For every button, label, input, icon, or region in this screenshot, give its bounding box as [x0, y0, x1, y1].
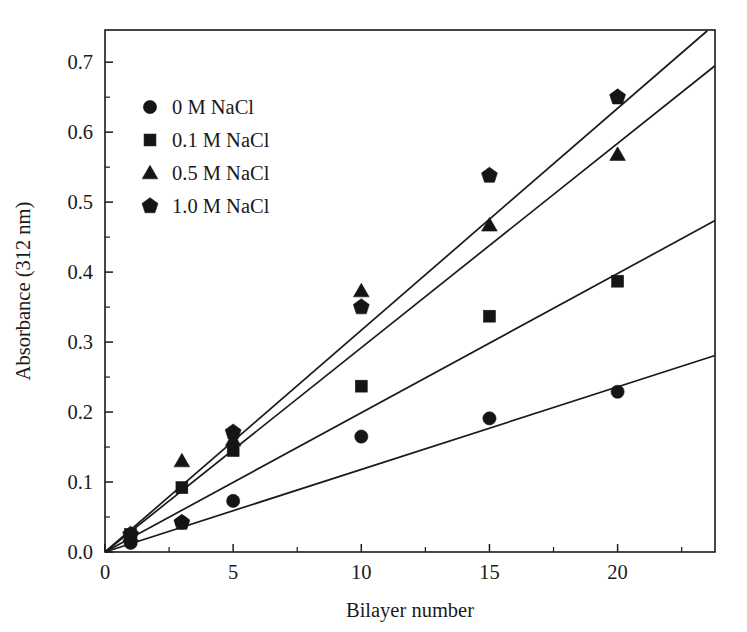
pentagon-marker-icon: [142, 198, 158, 213]
data-point-pentagon: [482, 167, 498, 182]
x-axis-tick-labels: 05101520: [100, 561, 628, 583]
data-point-square: [484, 310, 496, 322]
data-point-triangle: [353, 283, 369, 297]
trend-line: [105, 221, 715, 552]
y-axis-tick-labels: 0.00.10.20.30.40.50.60.7: [67, 51, 93, 563]
data-point-triangle: [610, 147, 626, 161]
square-marker-icon: [144, 134, 156, 146]
legend-label: 0 M NaCl: [172, 96, 254, 118]
y-tick-label: 0.2: [67, 401, 93, 423]
legend: 0 M NaCl0.1 M NaCl0.5 M NaCl1.0 M NaCl: [142, 96, 270, 217]
x-tick-label: 20: [607, 561, 628, 583]
data-point-circle: [483, 412, 496, 425]
trend-line: [105, 355, 715, 552]
data-point-square: [176, 482, 188, 494]
y-tick-label: 0.4: [67, 261, 93, 283]
x-tick-label: 15: [479, 561, 500, 583]
data-point-circle: [355, 430, 368, 443]
data-point-triangle: [174, 453, 190, 467]
triangle-marker-icon: [142, 165, 158, 179]
data-point-pentagon: [174, 514, 190, 529]
legend-label: 0.1 M NaCl: [172, 129, 270, 151]
legend-label: 0.5 M NaCl: [172, 162, 270, 184]
x-tick-label: 5: [228, 561, 238, 583]
data-point-square: [612, 275, 624, 287]
data-point-square: [355, 380, 367, 392]
circle-marker-icon: [143, 100, 156, 113]
x-axis-title: Bilayer number: [346, 599, 474, 622]
legend-label: 1.0 M NaCl: [172, 195, 270, 217]
absorbance-vs-bilayer-scatter-chart: 05101520 0.00.10.20.30.40.50.60.7 0 M Na…: [0, 0, 747, 632]
data-point-pentagon: [353, 299, 369, 314]
y-tick-label: 0.5: [67, 191, 93, 213]
data-point-square: [227, 445, 239, 457]
y-tick-label: 0.7: [67, 51, 93, 73]
y-tick-label: 0.6: [67, 121, 93, 143]
x-tick-label: 0: [100, 561, 110, 583]
x-tick-label: 10: [351, 561, 372, 583]
y-tick-label: 0.0: [67, 541, 93, 563]
data-point-circle: [611, 385, 624, 398]
data-point-pentagon: [225, 424, 241, 439]
y-tick-label: 0.3: [67, 331, 93, 353]
data-point-circle: [227, 494, 240, 507]
chart-figure: 05101520 0.00.10.20.30.40.50.60.7 0 M Na…: [0, 0, 747, 632]
y-tick-label: 0.1: [67, 471, 93, 493]
y-axis-title: Absorbance (312 nm): [12, 202, 35, 381]
data-point-pentagon: [610, 89, 626, 104]
